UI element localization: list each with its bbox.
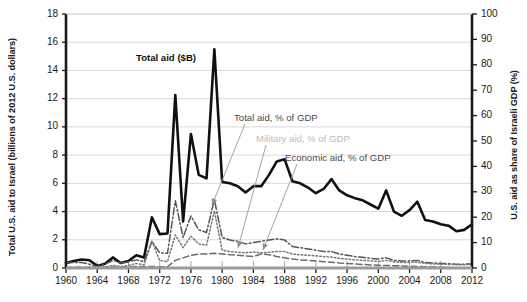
annotation-total-aid: Total aid ($B) xyxy=(136,52,196,63)
left-tick-label: 16 xyxy=(32,36,58,47)
left-tick-label: 4 xyxy=(32,205,58,216)
x-tick-label: 2012 xyxy=(452,275,492,286)
gridlines-group xyxy=(66,14,472,240)
right-tick-label: 70 xyxy=(481,84,507,95)
right-tick-label: 60 xyxy=(481,109,507,120)
right-tick-label: 100 xyxy=(481,8,507,19)
left-axis-title: Total U.S. aid to Israel (billions of 20… xyxy=(7,31,17,263)
left-tick-label: 0 xyxy=(32,262,58,273)
annotation-total-aid-pct: Total aid, % of GDP xyxy=(234,112,318,123)
right-axis-title: U.S. aid as share of Israeli GDP (%) xyxy=(509,51,519,239)
right-tick-label: 30 xyxy=(481,185,507,196)
right-tick-label: 10 xyxy=(481,236,507,247)
left-tick-label: 18 xyxy=(32,8,58,19)
right-tick-label: 50 xyxy=(481,135,507,146)
annotation-economic-aid-pct: Economic aid, % of GDP xyxy=(285,152,391,163)
right-tick-label: 80 xyxy=(481,58,507,69)
left-tick-label: 14 xyxy=(32,64,58,75)
right-tick-label: 90 xyxy=(481,33,507,44)
left-tick-label: 12 xyxy=(32,92,58,103)
chart-container: Total U.S. aid to Israel (billions of 20… xyxy=(0,0,527,302)
left-tick-label: 2 xyxy=(32,233,58,244)
annotation-military-aid-pct: Military aid, % of GDP xyxy=(256,133,350,144)
left-tick-label: 6 xyxy=(32,177,58,188)
series-line xyxy=(66,49,472,266)
left-tick-label: 10 xyxy=(32,120,58,131)
right-tick-label: 0 xyxy=(481,262,507,273)
chart-plot-svg xyxy=(0,0,527,302)
right-tick-label: 40 xyxy=(481,160,507,171)
right-tick-label: 20 xyxy=(481,211,507,222)
left-tick-label: 8 xyxy=(32,149,58,160)
